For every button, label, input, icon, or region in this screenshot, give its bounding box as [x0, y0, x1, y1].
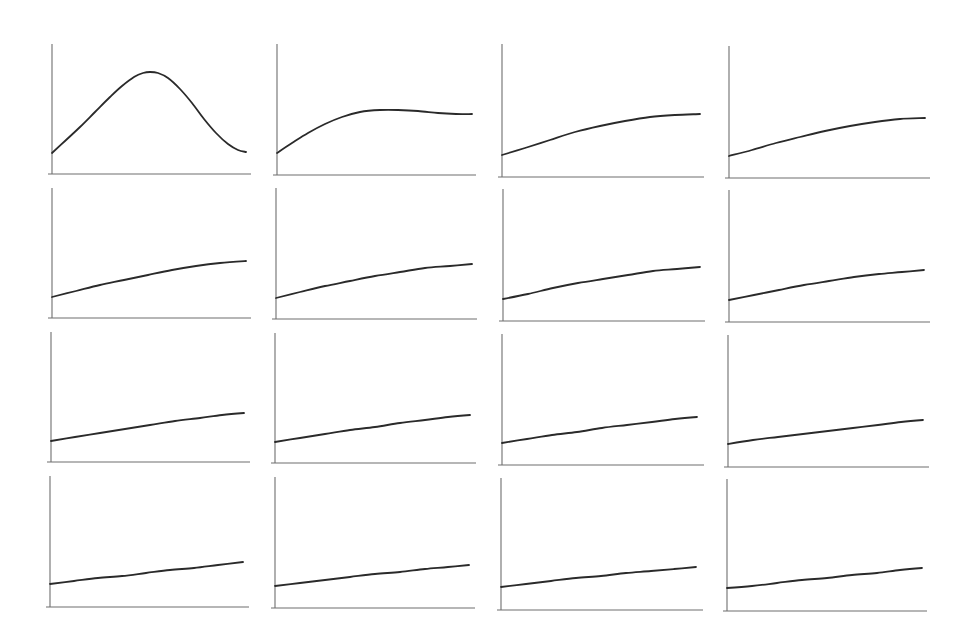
chart-panel-r3-c4 [724, 335, 929, 467]
chart-panel-r3-c3 [498, 334, 704, 465]
chart-panel-r2-c3 [499, 189, 705, 321]
chart-panel-r1-c4 [725, 46, 930, 178]
data-line [277, 110, 472, 153]
data-line [502, 114, 700, 155]
small-multiples-chart [0, 0, 973, 644]
data-line [501, 567, 696, 587]
data-line [276, 264, 472, 298]
panel-grid [46, 44, 930, 611]
chart-panel-r1-c1 [48, 44, 251, 174]
chart-panel-r3-c1 [47, 332, 250, 462]
chart-panel-r4-c1 [46, 476, 249, 607]
data-line [275, 415, 470, 442]
chart-panel-r3-c2 [271, 333, 476, 463]
data-line [51, 413, 244, 441]
data-line [275, 565, 469, 586]
chart-panel-r4-c2 [271, 477, 475, 608]
data-line [729, 270, 924, 300]
data-line [729, 118, 925, 156]
chart-panel-r2-c2 [272, 188, 477, 319]
data-line [502, 417, 697, 443]
data-line [52, 72, 246, 153]
data-line [503, 267, 700, 299]
data-line [52, 261, 246, 297]
data-line [727, 568, 922, 588]
chart-panel-r4-c4 [723, 479, 927, 611]
data-line [728, 420, 923, 444]
data-line [50, 562, 243, 584]
chart-panel-r2-c4 [725, 190, 930, 322]
chart-panel-r2-c1 [48, 188, 251, 318]
chart-panel-r1-c2 [273, 44, 476, 175]
chart-panel-r4-c3 [497, 478, 703, 610]
chart-panel-r1-c3 [498, 44, 704, 177]
